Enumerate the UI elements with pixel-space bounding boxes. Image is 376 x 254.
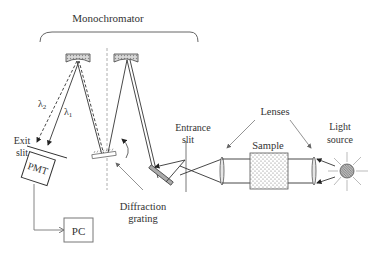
beam-right-mirror-down-2 <box>130 60 158 178</box>
monochromator-brace <box>40 32 198 42</box>
beam-lambda1 <box>48 61 79 145</box>
diffraction-pointer <box>116 163 143 190</box>
entrance-slit-label-2: slit <box>182 134 194 145</box>
beam-source-top <box>317 159 335 166</box>
collimating-mirror-right <box>114 54 138 62</box>
lenses-label: Lenses <box>260 106 289 117</box>
pmt-to-pc-connector <box>34 184 64 230</box>
lambda2-label: λ2 <box>38 98 47 111</box>
beam-right-mirror-down-1 <box>127 60 152 166</box>
beam-grating-to-mirror-solid <box>77 61 102 155</box>
monochromator-title: Monochromator <box>72 12 144 24</box>
beam-lambda2 <box>37 61 77 142</box>
entrance-slit-label-1: Entrance <box>175 122 211 133</box>
beam-grating-to-mirror-dashed <box>79 61 104 155</box>
light-source-label-2: source <box>327 134 354 145</box>
grating-rotation-arrow <box>122 139 128 158</box>
lens-right <box>312 157 316 185</box>
exit-slit-label-1: Exit <box>14 135 31 146</box>
beam-right-mirror-to-grating <box>108 60 127 153</box>
light-source-label-1: Light <box>329 121 351 132</box>
diffraction-label-1: Diffraction <box>120 201 167 212</box>
lens-pointer-right <box>290 120 311 148</box>
sample-label: Sample <box>252 140 284 151</box>
beam-source-bottom <box>317 177 335 183</box>
lamp-bulb-icon <box>340 164 354 178</box>
sample-cuvette <box>250 153 288 189</box>
exit-slit-label-2: slit <box>16 147 28 158</box>
lens-pointer-left <box>227 120 255 148</box>
diffraction-label-2: grating <box>128 213 158 224</box>
collimating-mirror-left <box>66 54 90 62</box>
lens-left <box>220 157 224 185</box>
light-source <box>328 152 368 191</box>
monochromator-diagram: Monochromator λ2 λ1 Exit slit PMT PC Dif… <box>0 0 376 254</box>
lambda1-label: λ1 <box>64 106 73 119</box>
plane-mirror <box>149 165 174 185</box>
pc-label: PC <box>72 225 85 237</box>
diffraction-grating <box>92 149 116 159</box>
beam-to-mirror-2 <box>166 160 185 182</box>
